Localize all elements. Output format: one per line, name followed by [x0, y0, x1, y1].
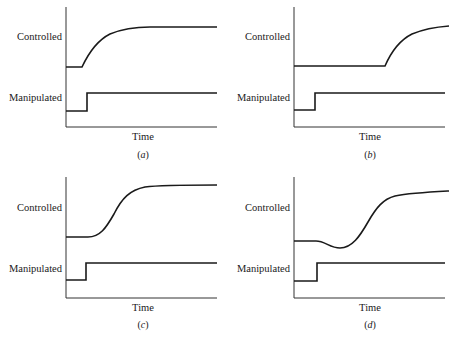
panel-b-manipulated-step	[294, 93, 445, 110]
panel-a-plot	[66, 7, 217, 127]
panel-d-manipulated-step	[294, 263, 445, 281]
panel-c-manipulated-label: Manipulated	[0, 263, 62, 275]
panel-d-controlled-curve	[294, 191, 449, 248]
panel-b-time-label: Time	[350, 131, 390, 143]
panel-d-time-label: Time	[350, 302, 390, 314]
panel-b-manipulated-label: Manipulated	[228, 92, 290, 104]
panel-c-manipulated-step	[66, 263, 217, 280]
panel-b-caption: (b)	[355, 149, 385, 161]
panel-a-manipulated-step	[66, 93, 217, 111]
panel-c-controlled-label: Controlled	[0, 202, 62, 214]
panel-d-caption: (d)	[355, 319, 385, 331]
panel-b-axes	[294, 7, 445, 127]
panel-a-caption: (a)	[128, 149, 158, 161]
panel-c-time-label: Time	[123, 302, 163, 314]
panel-b-controlled-curve	[294, 26, 449, 66]
panel-a-controlled-curve	[66, 27, 217, 67]
panel-a-manipulated-label: Manipulated	[0, 92, 62, 104]
panel-c-caption: (c)	[128, 319, 158, 331]
panel-c-plot	[66, 177, 217, 298]
panel-b-plot	[294, 7, 449, 127]
panel-a-time-label: Time	[123, 131, 163, 143]
panel-a-axes	[66, 7, 217, 127]
process-response-figure: Controlled Manipulated Time (a) Controll…	[0, 0, 454, 340]
panel-d-controlled-label: Controlled	[228, 202, 290, 214]
panel-b-controlled-label: Controlled	[228, 31, 290, 43]
panel-d-plot	[294, 177, 449, 298]
panel-d-manipulated-label: Manipulated	[228, 263, 290, 275]
panel-c-controlled-curve	[66, 185, 217, 237]
panel-a-controlled-label: Controlled	[0, 31, 62, 43]
response-curves-canvas	[0, 0, 454, 340]
